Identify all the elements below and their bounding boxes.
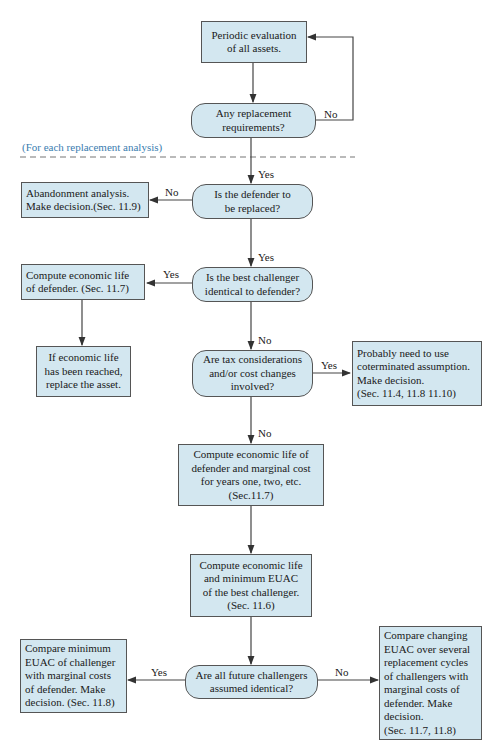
node-compare-changing-euac: Compare changing EUAC over several repla… [379, 626, 482, 740]
node-compare-min-euac: Compare minimum EUAC of challenger with … [20, 639, 127, 713]
edge-label-future-yes: Yes [151, 666, 167, 678]
edge-label-loop-no: No [324, 108, 337, 120]
node-compute-marginal-cost: Compute economic life of defender and ma… [178, 444, 324, 506]
edge-label-no-2: No [258, 427, 271, 439]
node-if-econ-life-reached: If economic life has been reached, repla… [36, 346, 131, 397]
node-abandonment-analysis: Abandonment analysis. Make decision.(Sec… [21, 182, 149, 218]
edge-label-yes-2: Yes [258, 251, 274, 263]
edge-label-no-1: No [258, 334, 271, 346]
edge-label-future-no: No [335, 666, 348, 678]
decision-tax-cost-changes: Are tax considerations and/or cost chang… [192, 350, 313, 397]
section-note: (For each replacement analysis) [22, 141, 162, 153]
decision-challenger-identical: Is the best challenger identical to defe… [192, 267, 313, 302]
edge-label-econ-yes: Yes [163, 268, 179, 280]
decision-defender-replaced: Is the defender to be replaced? [192, 184, 313, 219]
edge-label-coterminated-yes: Yes [321, 359, 337, 371]
node-compute-econ-life-defender: Compute economic life of defender. (Sec.… [21, 264, 145, 300]
decision-any-replacement: Any replacement requirements? [191, 103, 316, 138]
node-compute-min-euac: Compute economic life and minimum EUAC o… [190, 554, 312, 617]
edge-label-abandon-no: No [165, 186, 178, 198]
node-periodic-evaluation: Periodic evaluation of all assets. [201, 21, 307, 63]
decision-future-challengers-identical: Are all future challengers assumed ident… [185, 665, 318, 699]
node-coterminated-assumption: Probably need to use coterminated assump… [352, 341, 482, 406]
edge-label-yes-1: Yes [258, 168, 274, 180]
